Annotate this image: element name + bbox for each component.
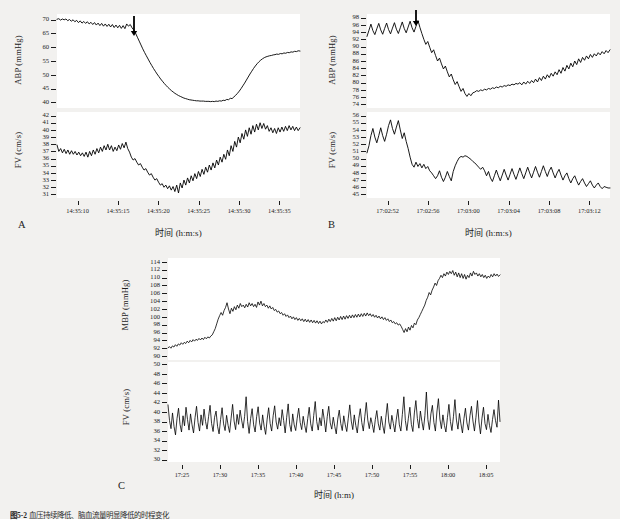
panel-c-ytick-label: 48 [142,371,160,378]
panel-a-ytick-mark [51,89,56,90]
panel-a-ytick-mark [51,116,56,117]
panel-c-ytick-label: 94 [142,337,160,344]
panel-c-ytick-label: 46 [142,380,160,387]
panel-b-ytick-mark [361,137,366,138]
caption-text: 血压持续降低、脑血流量明显降低的时程变化 [29,511,169,520]
panel-c-ytick-mark [162,293,167,294]
panel-b: ABP (mmHg) FV (cm/s) 时间 (h:m:s) B 989694… [310,0,620,250]
panel-b-ytick-mark [361,25,366,26]
panel-b-xtick-label: 17:03:00 [446,207,490,214]
panel-c-ytick-label: 100 [142,314,160,321]
panel-b-xtick-mark [509,201,510,205]
panel-c-xtick-mark [182,465,183,469]
panel-b-ytick-mark [361,187,366,188]
panel-a-xtick-mark [158,201,159,205]
panel-c-ytick-label: 36 [142,428,160,435]
caption-prefix: 图5-2 [10,511,27,520]
panel-b-letter: B [328,219,335,230]
panel-b-ytick-mark [361,32,366,33]
panel-c-ytick-mark [162,317,167,318]
panel-b-xtick-label: 17:03:04 [487,207,531,214]
panel-b-ytick-mark [361,75,366,76]
panel-c-ytick-label: 106 [142,290,160,297]
panel-c-ytick-mark [162,441,167,442]
panel-c-ytick-label: 90 [142,353,160,360]
panel-b-ytick-mark [361,180,366,181]
panel-c-ytick-mark [162,431,167,432]
panel-c-ytick-label: 30 [142,456,160,463]
panel-c-ytick-label: 50 [142,361,160,368]
panel-b-ytick-label: 74 [341,101,359,108]
panel-a-ytick-label: 50 [31,72,49,79]
panel-a-ytick-mark [51,151,56,152]
panel-c-ytick-label: 108 [142,282,160,289]
panel-c-xtick-mark [334,465,335,469]
panel-a-xtick-label: 14:35:25 [177,207,221,214]
panel-a-ytick-label: 31 [31,191,49,198]
panel-b-ytick-mark [361,144,366,145]
panel-b-xtick-label: 17:02:52 [366,207,410,214]
panel-c-ytick-label: 98 [142,321,160,328]
panel-a-xtick-label: 14:35:30 [217,207,261,214]
panel-c-ytick-label: 42 [142,399,160,406]
panel-b-xtick-mark [428,201,429,205]
panel-b-xtick-label: 17:03:12 [567,207,611,214]
panel-b-xtick-label: 17:02:56 [406,207,450,214]
panel-a-ytick-label: 40 [31,99,49,106]
panel-c-ytick-label: 110 [142,274,160,281]
panel-c-ytick-mark [162,364,167,365]
panel-c-ytick-mark [162,393,167,394]
panel-a-xaxis-label: 时间 (h:m:s) [57,226,300,239]
panel-b-ytick-mark [361,18,366,19]
panel-b-xtick-mark [468,201,469,205]
panel-c-xtick-mark [296,465,297,469]
panel-b-ytick-mark [361,130,366,131]
panel-a-ytick-mark [51,166,56,167]
panel-a-ytick-mark [51,20,56,21]
panel-a-xtick-label: 14:35:15 [96,207,140,214]
panel-b-trace [367,21,610,97]
panel-a-ytick-mark [51,180,56,181]
panel-a-ytick-label: 65 [31,30,49,37]
panel-c-ytick-label: 34 [142,437,160,444]
panel-c-trace [168,271,500,349]
panel-c-ytick-mark [162,325,167,326]
panel-c-ytick-mark [162,301,167,302]
panel-b-ytick-label: 80 [341,79,359,86]
panel-a-xtick-mark [279,201,280,205]
panel-c-ytick-mark [162,278,167,279]
panel-b-xaxis-label: 时间 (h:m:s) [367,226,610,239]
panel-a-ytick-label: 70 [31,16,49,23]
panel-a-xtick-mark [78,201,79,205]
panel-b-ytick-mark [361,68,366,69]
panel-a-arrow-down-icon [131,16,137,36]
panel-c-xaxis-label: 时间 (h:m) [168,488,500,501]
panel-a-ytick-mark [51,144,56,145]
panel-a-trace [57,123,300,193]
panel-c-ytick-label: 114 [142,259,160,266]
panel-c-ytick-label: 32 [142,447,160,454]
panel-c-ytick-mark [162,422,167,423]
panel-b-xtick-label: 17:03:08 [527,207,571,214]
panel-a-ytick-label: 45 [31,85,49,92]
panel-c-ytick-mark [162,412,167,413]
panel-c-xtick-mark [448,465,449,469]
panel-a-xtick-label: 14:35:35 [257,207,301,214]
panel-c-ytick-label: 112 [142,266,160,273]
panel-b-ytick-mark [361,151,366,152]
panel-b-xtick-mark [549,201,550,205]
panel-b-ytick-mark [361,159,366,160]
panel-a-ytick-mark [51,123,56,124]
panel-a-ytick-mark [51,102,56,103]
panel-a-ytick-label: 55 [31,58,49,65]
panel-c-ytick-mark [162,460,167,461]
panel-a-ytick-mark [51,75,56,76]
panel-c-ytick-mark [162,270,167,271]
panel-c-ytick-mark [162,262,167,263]
panel-c-ytick-mark [162,356,167,357]
panel-a: ABP (mmHg) FV (cm/s) 时间 (h:m:s) A 706560… [0,0,310,250]
panel-c-letter: C [118,480,125,491]
panel-b-ytick-mark [361,116,366,117]
panel-b-arrow-down-icon [413,10,419,26]
